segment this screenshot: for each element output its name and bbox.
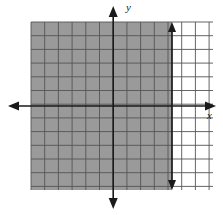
inequality-graph-figure: y x bbox=[0, 0, 223, 215]
y-axis-label: y bbox=[126, 2, 131, 13]
x-axis-label: x bbox=[207, 110, 212, 121]
y-axis-arrow-bottom bbox=[109, 198, 118, 209]
x-axis-arrow-left bbox=[8, 102, 19, 111]
y-axis-arrow-top bbox=[109, 6, 118, 17]
coordinate-plane-svg bbox=[0, 0, 223, 215]
